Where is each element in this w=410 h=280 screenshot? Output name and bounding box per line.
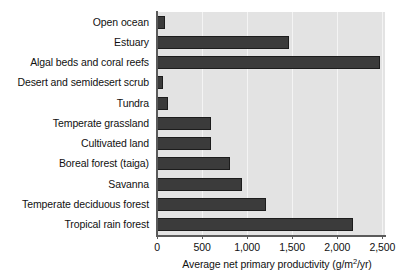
- bar-row: [157, 73, 385, 93]
- bar-row: [157, 174, 385, 194]
- category-label: Temperate deciduous forest: [0, 194, 154, 214]
- category-label: Boreal forest (taiga): [0, 154, 154, 174]
- bar-tropical-rain-forest: [157, 218, 353, 231]
- category-label: Algal beds and coral reefs: [0, 53, 154, 73]
- x-tick-mark: [247, 235, 248, 239]
- bar-cultivated-land: [157, 137, 211, 150]
- bar-temperate-grassland: [157, 117, 211, 130]
- category-label: Estuary: [0, 32, 154, 52]
- bar-open-ocean: [157, 16, 165, 29]
- bar-boreal-forest-taiga: [157, 157, 230, 170]
- bar-row: [157, 12, 385, 32]
- bars-layer: [157, 12, 385, 235]
- x-tick-label: 2,000: [324, 241, 350, 253]
- bar-temperate-deciduous-forest: [157, 198, 266, 211]
- x-axis-line: [156, 235, 386, 237]
- bar-estuary: [157, 36, 289, 49]
- category-label: Open ocean: [0, 12, 154, 32]
- category-label: Desert and semidesert scrub: [0, 73, 154, 93]
- category-label: Cultivated land: [0, 134, 154, 154]
- bar-row: [157, 134, 385, 154]
- category-label: Tundra: [0, 93, 154, 113]
- bar-tundra: [157, 97, 168, 110]
- category-label: Tropical rain forest: [0, 215, 154, 235]
- plot-area: [157, 12, 385, 235]
- x-tick-label: 2,500: [369, 241, 395, 253]
- x-axis-title: Average net primary productivity (g/m2/y…: [157, 258, 397, 270]
- x-tick-mark: [292, 235, 293, 239]
- bar-row: [157, 93, 385, 113]
- bar-row: [157, 113, 385, 133]
- bar-desert-and-semidesert-scrub: [157, 76, 163, 89]
- x-tick-mark: [157, 235, 158, 239]
- y-axis-line: [156, 11, 158, 236]
- x-tick-mark: [202, 235, 203, 239]
- category-axis: Open ocean Estuary Algal beds and coral …: [0, 12, 154, 235]
- bar-row: [157, 32, 385, 52]
- x-tick-label: 1,500: [279, 241, 305, 253]
- x-tick-mark: [382, 235, 383, 239]
- bar-row: [157, 53, 385, 73]
- bar-row: [157, 194, 385, 214]
- x-tick-labels: 05001,0001,5002,0002,500: [0, 241, 410, 255]
- bar-algal-beds-and-coral-reefs: [157, 56, 380, 69]
- category-label: Temperate grassland: [0, 113, 154, 133]
- category-label: Savanna: [0, 174, 154, 194]
- x-tick-mark: [337, 235, 338, 239]
- bar-savanna: [157, 178, 242, 191]
- bar-chart-figure: Open ocean Estuary Algal beds and coral …: [0, 0, 410, 280]
- x-tick-label: 1,000: [234, 241, 260, 253]
- bar-row: [157, 154, 385, 174]
- x-tick-label: 500: [193, 241, 210, 253]
- bar-row: [157, 215, 385, 235]
- x-tick-label: 0: [154, 241, 160, 253]
